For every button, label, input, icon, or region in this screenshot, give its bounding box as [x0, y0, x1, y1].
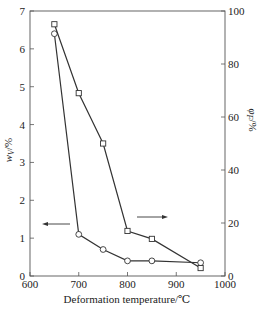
x-axis-ticks: 6007008009001000 — [22, 272, 237, 290]
x-tick-label: 900 — [168, 278, 185, 290]
left-axis-ticks: 01234567 — [20, 5, 35, 282]
plot-frame — [30, 11, 225, 276]
data-series — [51, 22, 203, 271]
y-tick-label: 4 — [20, 119, 26, 131]
y-right-tick-label: 40 — [228, 164, 240, 176]
square-marker — [52, 22, 57, 27]
circle-marker — [198, 260, 204, 266]
y-tick-label: 1 — [20, 232, 26, 244]
y-tick-label: 7 — [20, 5, 26, 17]
circle-marker — [125, 258, 131, 264]
square-marker — [125, 228, 130, 233]
square-marker — [76, 91, 81, 96]
y-right-tick-label: 80 — [228, 58, 240, 70]
axis-indicator-arrows — [42, 215, 168, 226]
square-marker — [198, 265, 203, 270]
circle-marker — [149, 258, 155, 264]
y-right-tick-label: 20 — [228, 217, 240, 229]
y-axis-label-right: φF/% — [245, 108, 257, 131]
arrow-left-head — [42, 222, 48, 226]
y-tick-label: 6 — [20, 43, 26, 55]
square-marker — [149, 236, 154, 241]
y-right-tick-label: 100 — [228, 5, 245, 17]
x-tick-label: 600 — [22, 278, 39, 290]
y-tick-label: 5 — [20, 81, 26, 93]
arrow-right-head — [162, 215, 168, 219]
y-right-tick-label: 60 — [228, 111, 240, 123]
plot-border — [30, 11, 225, 276]
y-right-label-unit: /% — [247, 119, 257, 131]
circle-marker — [100, 247, 106, 253]
y-label-unit: /% — [2, 138, 14, 150]
x-axis-label: Deformation temperature/℃ — [64, 293, 191, 305]
x-tick-label: 800 — [119, 278, 136, 290]
circle-marker — [76, 231, 82, 237]
y-axis-label-left: wV/% — [2, 138, 16, 162]
chart: 01234567 020406080100 6007008009001000 D… — [0, 0, 257, 310]
x-tick-label: 1000 — [214, 278, 237, 290]
y-tick-label: 2 — [20, 194, 26, 206]
x-tick-label: 700 — [71, 278, 88, 290]
square-marker — [101, 141, 106, 146]
y-tick-label: 3 — [20, 156, 26, 168]
